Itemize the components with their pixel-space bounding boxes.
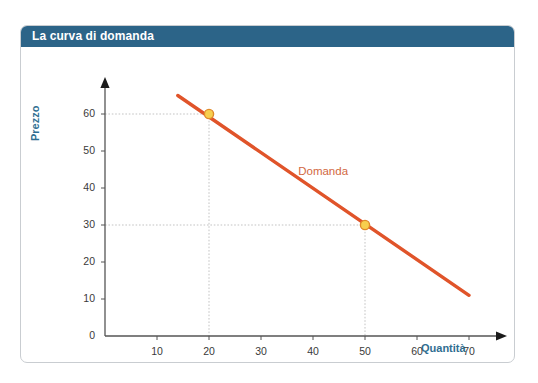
- y-axis-arrowhead: [100, 77, 109, 88]
- x-tick-label-30: 30: [249, 345, 273, 357]
- tick-marks-group: [101, 114, 469, 340]
- x-tick-label-60: 60: [405, 345, 429, 357]
- data-point-0: [204, 109, 213, 118]
- chart-plot-area: Prezzo Quantità Domanda 0102030405060 10…: [21, 47, 515, 363]
- y-tick-label-30: 30: [71, 218, 95, 230]
- data-point-1: [360, 220, 369, 229]
- y-tick-label-0: 0: [71, 329, 95, 341]
- y-tick-label-40: 40: [71, 181, 95, 193]
- x-tick-label-70: 70: [457, 345, 481, 357]
- y-tick-label-60: 60: [71, 107, 95, 119]
- x-tick-label-50: 50: [353, 345, 377, 357]
- demand-series-label: Domanda: [298, 165, 348, 177]
- chart-title-bar: La curva di domanda: [21, 26, 514, 47]
- chart-canvas: [21, 47, 515, 363]
- guide-lines-group: [105, 114, 365, 336]
- chart-card: La curva di domanda Prezzo Quantità Doma…: [20, 25, 515, 363]
- series-line-domanda: [178, 96, 469, 296]
- y-tick-label-50: 50: [71, 144, 95, 156]
- chart-title: La curva di domanda: [32, 29, 154, 43]
- x-tick-label-40: 40: [301, 345, 325, 357]
- x-tick-label-10: 10: [145, 345, 169, 357]
- x-axis-arrowhead: [496, 331, 507, 340]
- y-tick-label-10: 10: [71, 292, 95, 304]
- axes-group: [100, 77, 507, 341]
- demand-curve-group: [178, 96, 469, 296]
- x-tick-label-20: 20: [197, 345, 221, 357]
- y-tick-label-20: 20: [71, 255, 95, 267]
